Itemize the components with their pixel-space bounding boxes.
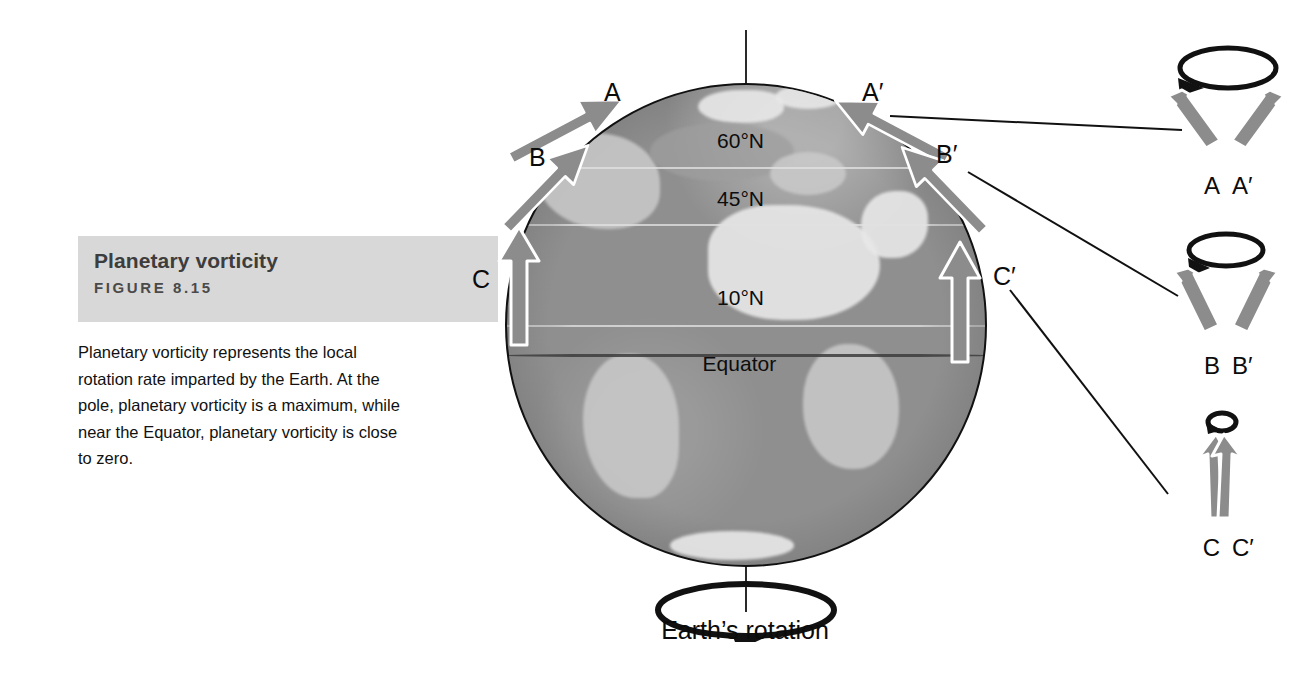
- earth-rotation-label: Earth’s rotation: [600, 616, 890, 645]
- latitude-line-10n: [505, 325, 987, 327]
- vorticity-label-a: A: [604, 78, 621, 107]
- inset-mid-latitude: BB′: [1146, 218, 1306, 388]
- latitude-label-equator: Equator: [703, 352, 777, 376]
- vorticity-label-c-prime: C′: [993, 262, 1016, 291]
- latitude-label-10n: 10°N: [717, 286, 764, 310]
- latitude-label-60n: 60°N: [717, 129, 764, 153]
- landmass-europe: [770, 152, 846, 195]
- vorticity-label-b: B: [529, 143, 546, 172]
- inset-labels-c: CC′: [1146, 534, 1306, 562]
- inset-labels-b: BB′: [1146, 352, 1306, 380]
- vorticity-label-b-prime: B′: [936, 140, 957, 169]
- inset-label-c-prime: C′: [1226, 534, 1306, 562]
- inset-arrow-b: [1174, 268, 1219, 332]
- latitude-label-45n: 45°N: [717, 187, 764, 211]
- inset-label-c: C: [1146, 534, 1226, 562]
- vorticity-label-a-prime: A′: [862, 78, 883, 107]
- landmass-greenland: [698, 90, 784, 124]
- vorticity-arrow-c: [497, 225, 541, 345]
- rotation-ellipse-b: [1189, 234, 1263, 266]
- planetary-vorticity-figure: Planetary vorticity FIGURE 8.15 Planetar…: [0, 0, 1311, 694]
- inset-arrow-b-prime: [1233, 268, 1278, 332]
- caption-body-text: Planetary vorticity represents the local…: [78, 339, 408, 472]
- caption-band: Planetary vorticity FIGURE 8.15: [78, 236, 498, 322]
- inset-arrow-a: [1168, 90, 1220, 148]
- figure-number: FIGURE 8.15: [94, 279, 498, 296]
- landmass-south-america: [583, 354, 679, 498]
- landmass-antarctic-edge: [670, 531, 794, 560]
- caption-title: Planetary vorticity: [94, 248, 498, 274]
- latitude-line-45n: [505, 224, 987, 226]
- inset-high-latitude: AA′: [1146, 38, 1306, 208]
- inset-low-latitude: CC′: [1146, 400, 1306, 570]
- inset-label-a: A: [1146, 172, 1226, 200]
- inset-label-b: B: [1146, 352, 1226, 380]
- rotation-axis-top: [745, 30, 747, 88]
- inset-labels-a: AA′: [1146, 172, 1306, 200]
- inset-arrow-a-prime: [1232, 90, 1284, 148]
- vorticity-label-c: C: [472, 265, 490, 294]
- inset-label-b-prime: B′: [1226, 352, 1306, 380]
- leader-line-c: [1010, 290, 1168, 494]
- caption-block: Planetary vorticity FIGURE 8.15 Planetar…: [78, 236, 498, 472]
- inset-label-a-prime: A′: [1226, 172, 1306, 200]
- vorticity-arrow-c-prime: [938, 240, 982, 362]
- rotation-ellipse-a: [1180, 48, 1276, 88]
- landmass-southern-africa: [803, 344, 899, 469]
